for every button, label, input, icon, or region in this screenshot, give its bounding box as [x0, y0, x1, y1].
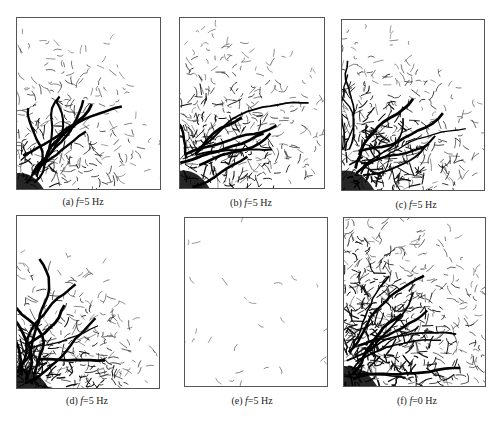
crack-segment	[449, 81, 452, 86]
crack-segment	[137, 147, 144, 149]
crack-segment	[30, 309, 35, 319]
crack-segment	[185, 41, 188, 44]
crack-segment	[372, 81, 378, 84]
crack-segment	[440, 283, 446, 289]
crack-segment	[28, 269, 30, 272]
crack-segment	[259, 93, 261, 98]
crack-segment	[460, 165, 465, 170]
crack-segment	[65, 150, 72, 155]
crack-segment	[286, 86, 288, 90]
crack-segment	[457, 117, 462, 118]
crack-segment	[48, 348, 58, 349]
crack-segment	[188, 240, 189, 245]
crack-segment	[69, 363, 72, 372]
crack-segment	[249, 302, 256, 303]
crack-segment	[455, 300, 459, 302]
crack-segment	[128, 327, 132, 328]
crack-segment	[466, 289, 470, 297]
crack-segment	[399, 218, 404, 221]
crack-segment	[472, 100, 474, 107]
crack-segment	[434, 186, 437, 188]
crack-segment	[416, 69, 418, 74]
crack-segment	[447, 286, 451, 294]
crack-segment	[19, 263, 25, 266]
crack-segment	[351, 274, 357, 279]
crack-segment	[71, 144, 72, 148]
crack-segment	[18, 114, 25, 115]
crack-segment	[359, 100, 362, 104]
crack-segment	[70, 373, 73, 376]
main-crack-branch	[28, 108, 43, 177]
crack-segment	[68, 280, 77, 281]
crack-segment	[453, 275, 454, 283]
crack-segment	[314, 108, 317, 110]
crack-segment	[280, 84, 282, 91]
crack-segment	[52, 291, 54, 300]
crack-segment	[196, 114, 197, 119]
crack-segment	[57, 55, 63, 56]
crack-segment	[460, 138, 461, 146]
crack-segment	[104, 340, 105, 343]
crack-segment	[423, 186, 424, 190]
crack-segment	[412, 335, 420, 336]
crack-segment	[354, 135, 355, 139]
crack-segment	[425, 294, 426, 301]
crack-segment	[458, 135, 462, 136]
crack-segment	[192, 108, 195, 113]
crack-segment	[190, 115, 192, 119]
crack-segment	[390, 246, 391, 256]
crack-segment	[436, 285, 443, 288]
crack-segment	[110, 35, 113, 40]
crack-segment	[189, 132, 190, 138]
crack-segment	[459, 298, 463, 301]
crack-segment	[102, 332, 104, 337]
crack-segment	[375, 104, 377, 114]
crack-segment	[421, 303, 422, 307]
crack-segment	[370, 255, 376, 257]
crack-segment	[72, 326, 76, 335]
crack-segment	[85, 46, 86, 52]
crack-segment	[481, 335, 484, 340]
crack-segment	[281, 318, 285, 323]
crack-segment	[352, 219, 354, 225]
crack-segment	[100, 343, 106, 346]
crack-segment	[342, 43, 343, 52]
crack-segment	[216, 378, 221, 384]
crack-segment	[406, 318, 408, 322]
crack-segment	[414, 245, 416, 248]
crack-segment	[352, 270, 358, 273]
crack-segment	[465, 315, 468, 318]
crack-segment	[476, 357, 477, 362]
crack-segment	[388, 121, 389, 128]
crack-segment	[120, 161, 122, 163]
crack-segment	[396, 273, 398, 279]
crack-segment	[244, 297, 247, 299]
crack-segment	[103, 280, 109, 282]
crack-segment	[271, 186, 274, 188]
crack-segment	[390, 26, 391, 33]
crack-segment	[477, 102, 482, 104]
crack-segment	[406, 260, 410, 261]
crack-network-a	[17, 18, 160, 189]
crack-segment	[116, 100, 119, 102]
crack-segment	[438, 69, 440, 76]
crack-segment	[408, 218, 410, 220]
crack-segment	[417, 293, 421, 294]
crack-segment	[80, 293, 83, 297]
crack-segment	[186, 142, 188, 150]
crack-segment	[243, 122, 250, 124]
crack-segment	[471, 120, 478, 123]
crack-network-c	[342, 20, 484, 190]
crack-segment	[85, 273, 91, 277]
crack-segment	[443, 121, 446, 128]
crack-segment	[71, 61, 72, 69]
crack-lines	[344, 218, 485, 386]
crack-segment	[433, 112, 436, 116]
crack-segment	[302, 125, 306, 127]
crack-segment	[84, 134, 86, 137]
crack-segment	[61, 164, 63, 167]
crack-segment	[433, 310, 440, 312]
crack-segment	[240, 42, 248, 43]
crack-segment	[257, 74, 264, 76]
crack-segment	[28, 296, 38, 302]
